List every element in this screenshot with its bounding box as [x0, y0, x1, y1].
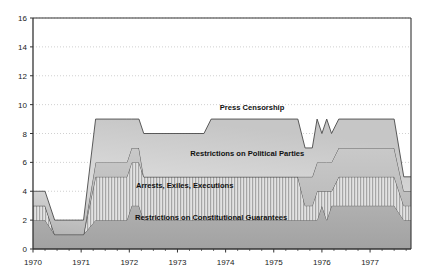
x-tick-label: 1970 — [24, 258, 42, 267]
y-tick-label: 0 — [23, 245, 28, 254]
x-tick-label: 1975 — [265, 258, 283, 267]
series-annotation: Restrictions on Political Parties — [190, 149, 304, 158]
x-tick-label: 1973 — [169, 258, 187, 267]
x-tick-label: 1972 — [120, 258, 138, 267]
y-tick-label: 16 — [18, 14, 27, 23]
y-tick-label: 2 — [23, 216, 28, 225]
x-tick-label: 1976 — [313, 258, 331, 267]
x-tick-label: 1971 — [72, 258, 90, 267]
y-tick-label: 4 — [23, 187, 28, 196]
y-tick-label: 8 — [23, 130, 28, 139]
chart-container: 0246810121416 19701971197219731974197519… — [0, 0, 426, 278]
y-tick-label: 14 — [18, 43, 27, 52]
series-annotation: Arrests, Exiles, Executions — [136, 181, 234, 190]
x-tick-label: 1974 — [217, 258, 235, 267]
y-tick-label: 12 — [18, 72, 27, 81]
series-annotation: Press Censorship — [220, 103, 285, 112]
stacked-area-chart: 0246810121416 19701971197219731974197519… — [0, 0, 426, 278]
y-tick-label: 10 — [18, 101, 27, 110]
y-tick-label: 6 — [23, 158, 28, 167]
x-tick-label: 1977 — [361, 258, 379, 267]
series-annotation: Restrictions on Constitutional Guarantee… — [135, 213, 287, 222]
